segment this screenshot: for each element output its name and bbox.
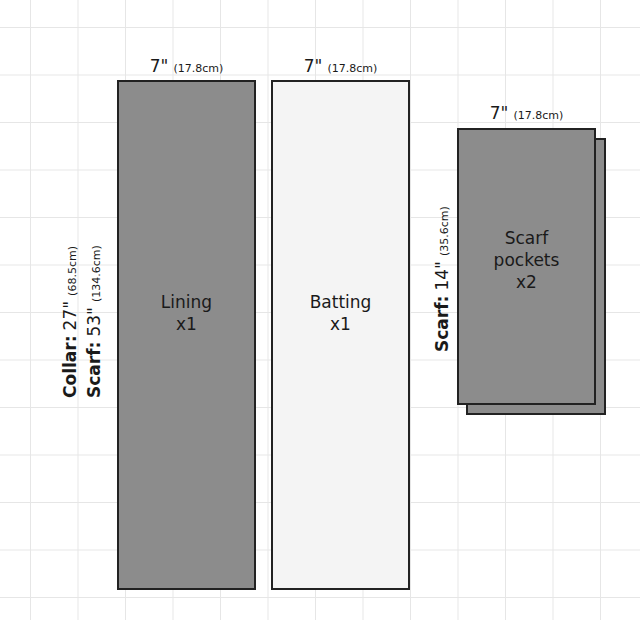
pocket-name-line2: pockets [459,250,594,270]
collar-inches: 27" [60,301,80,330]
batting-width-inches: 7" [304,56,323,76]
lining-piece: Lining x1 [117,80,256,590]
batting-piece: Batting x1 [271,80,410,590]
batting-qty: x1 [273,314,408,334]
scarf-length-label: Scarf: 53" (134.6cm) [84,245,104,398]
lining-name: Lining [119,292,254,312]
pocket-height-label: Scarf: 14" (35.6cm) [432,206,452,352]
lining-width-cm: (17.8cm) [173,62,223,75]
pocket-height-inches: 14" [432,261,452,290]
pocket-qty: x2 [459,272,594,292]
collar-cm: (68.5cm) [66,246,79,296]
pocket-width-cm: (17.8cm) [513,109,563,122]
batting-width-label: 7" (17.8cm) [271,56,410,76]
scarf-inches: 53" [84,307,104,336]
collar-label: Collar: [60,336,80,398]
pocket-width-label: 7" (17.8cm) [457,103,596,123]
scarf-cm: (134.6cm) [90,245,103,302]
lining-qty: x1 [119,314,254,334]
pocket-piece-front: Scarf pockets x2 [457,128,596,405]
pocket-height-name: Scarf: [432,296,452,352]
batting-width-cm: (17.8cm) [327,62,377,75]
lining-width-label: 7" (17.8cm) [117,56,256,76]
scarf-label: Scarf: [84,342,104,398]
lining-width-inches: 7" [150,56,169,76]
pocket-height-cm: (35.6cm) [438,206,451,256]
collar-length-label: Collar: 27" (68.5cm) [60,246,80,398]
pocket-width-inches: 7" [490,103,509,123]
batting-name: Batting [273,292,408,312]
pocket-name-line1: Scarf [459,228,594,248]
